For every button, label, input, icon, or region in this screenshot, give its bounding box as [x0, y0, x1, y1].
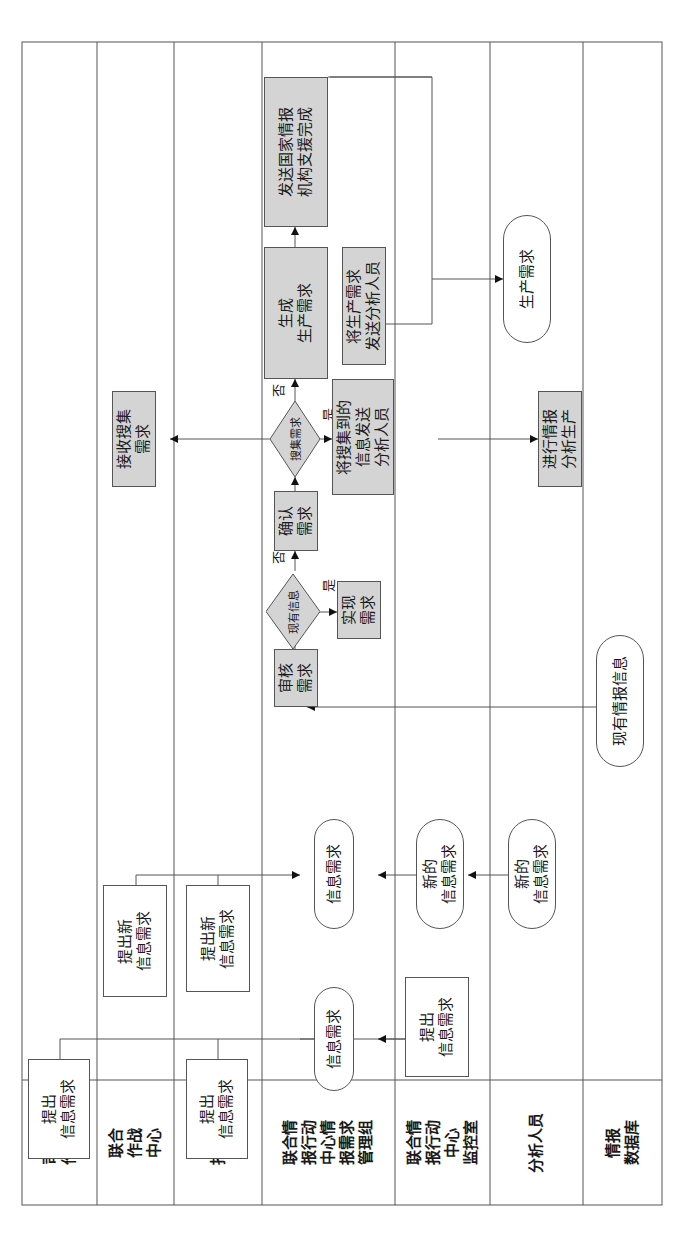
- send-prod-to-analyst-box: 将生产需求 发送分析人员: [342, 247, 386, 365]
- send-national-support-box: 发送国家情报 机构支援完成: [264, 77, 328, 227]
- watch-new-info-req-oval: 新的 信息需求: [416, 819, 464, 929]
- hq-submit-info-req-box: 提出 信息需求: [28, 1059, 90, 1159]
- generate-prod-req-box: 生成 生产需求: [264, 247, 328, 379]
- info-req-oval-2: 信息需求: [314, 819, 354, 929]
- existing-intel-oval: 现有情报信息: [596, 635, 644, 767]
- lane-header-jioc-req-mgmt: 联合情 报行动 中心情 报需求 管理组: [262, 1080, 395, 1205]
- existing-no-label: 否: [272, 551, 285, 564]
- confirm-req-box: 确认 需求: [274, 491, 318, 551]
- collect-no-label: 否: [272, 384, 285, 397]
- decision-existing-info-label: 现有信息: [266, 574, 320, 649]
- fulfill-req-box: 实现 需求: [337, 581, 381, 639]
- receive-collect-req-box: 接收搜集 需求: [112, 391, 156, 487]
- review-req-box: 审核 需求: [274, 649, 318, 707]
- lane-header-intel-db: 情报 数据库: [583, 1080, 662, 1205]
- commander-submit-new-info-req-box: 提出新 信息需求: [186, 885, 250, 992]
- existing-yes-label: 是: [322, 579, 335, 592]
- analyst-new-info-req-oval: 新的 信息需求: [508, 819, 556, 929]
- prod-req-oval: 生产需求: [503, 215, 551, 343]
- lane-header-analysts: 分析人员: [490, 1080, 583, 1205]
- decision-collect-req: 搜集需求: [270, 401, 320, 477]
- lane-header-joint-ops-center: 联合 作战 中心: [97, 1080, 174, 1205]
- send-collected-info-box: 将搜集到的 信息发送 分析人员: [332, 379, 394, 495]
- info-req-oval-1: 信息需求: [314, 987, 354, 1091]
- joc-submit-new-info-req-box: 提出新 信息需求: [103, 885, 167, 997]
- commander-submit-info-req-box: 提出 信息需求: [186, 1059, 248, 1159]
- conduct-analysis-box: 进行情报 分析生产: [538, 391, 582, 487]
- decision-collect-req-label: 搜集需求: [270, 401, 320, 477]
- decision-existing-info: 现有信息: [266, 574, 320, 649]
- swimlane-diagram: 司令部 作战部 联合 作战 中心 指挥官 联合情 报行动 中心情 报需求 管理组…: [0, 0, 682, 1247]
- watch-submit-info-req-box: 提出 信息需求: [405, 977, 469, 1077]
- lane-header-jioc-watch: 联合情 报行动 中心 监控室: [395, 1080, 490, 1205]
